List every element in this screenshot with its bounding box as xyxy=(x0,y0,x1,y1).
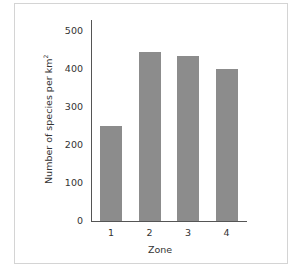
y-tick-label: 500 xyxy=(53,26,83,36)
y-tick-label: 100 xyxy=(53,178,83,188)
y-axis-label-superscript: 2 xyxy=(42,55,49,59)
x-axis-line xyxy=(91,221,247,222)
y-tick-label: 0 xyxy=(53,216,83,226)
x-axis-label: Zone xyxy=(130,245,190,255)
x-tick-label: 3 xyxy=(178,228,198,238)
y-axis-label-text: Number of species per km xyxy=(43,59,54,184)
bar-zone-4 xyxy=(216,69,238,221)
bar-zone-3 xyxy=(177,56,199,221)
x-tick-label: 1 xyxy=(101,228,121,238)
bar-zone-1 xyxy=(100,126,122,221)
y-axis-label: Number of species per km2 xyxy=(41,64,54,184)
x-tick-label: 2 xyxy=(140,228,160,238)
y-tick-label: 300 xyxy=(53,102,83,112)
y-axis-line xyxy=(91,20,92,222)
x-tick-label: 4 xyxy=(217,228,237,238)
bar-zone-2 xyxy=(139,52,161,221)
y-tick-label: 400 xyxy=(53,64,83,74)
y-tick-label: 200 xyxy=(53,140,83,150)
